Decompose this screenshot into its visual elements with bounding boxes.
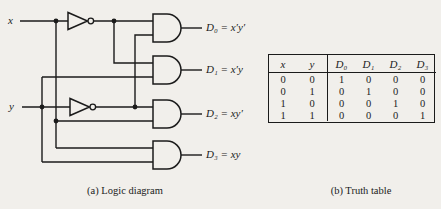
not-gate-y <box>70 99 96 116</box>
figure-decoder: x y D₀ = x′y′ D₁ = x′y D₂ = xy′ D₃ = xy … <box>0 0 441 209</box>
junction-dot-x-d2 <box>54 119 59 124</box>
output-label-d1: D₁ = x′y <box>206 63 243 76</box>
table-cell: 0 <box>269 73 297 85</box>
wire-yprime-to-d0 <box>135 35 153 107</box>
table-cell: 1 <box>269 109 297 121</box>
caption-logic-diagram: (a) Logic diagram <box>70 185 180 197</box>
truth-table-header-y: y <box>297 55 328 73</box>
junction-dot-yprime <box>133 105 138 110</box>
table-cell: 1 <box>409 109 436 121</box>
and-gate-d0 <box>153 14 181 42</box>
truth-table-header-d1: D₁ <box>355 55 382 73</box>
table-cell: 1 <box>269 97 297 109</box>
truth-table: x y D₀ D₁ D₂ D₃ 0 0 1 0 0 0 0 1 0 1 0 0 … <box>268 54 435 123</box>
not-gate-y-triangle <box>70 99 90 116</box>
junction-dot-x <box>54 19 59 24</box>
truth-table-header-d0: D₀ <box>328 55 355 73</box>
table-cell: 1 <box>297 109 328 121</box>
table-cell: 0 <box>297 97 328 109</box>
table-cell: 0 <box>409 97 436 109</box>
table-cell: 0 <box>409 85 436 97</box>
table-cell: 0 <box>328 109 355 121</box>
table-cell: 0 <box>355 73 382 85</box>
table-cell: 0 <box>382 109 409 121</box>
input-label-x: x <box>8 14 13 27</box>
not-gate-y-bubble <box>90 104 96 110</box>
table-cell: 0 <box>382 73 409 85</box>
caption-truth-table: (b) Truth table <box>306 185 416 197</box>
table-cell: 0 <box>328 97 355 109</box>
table-cell: 0 <box>355 109 382 121</box>
table-cell: 0 <box>297 73 328 85</box>
wire-xprime-to-d1 <box>114 21 153 63</box>
table-cell: 0 <box>269 85 297 97</box>
junction-dot-y <box>40 105 45 110</box>
and-gate-d3 <box>153 141 181 169</box>
and-gate-d2 <box>153 100 181 128</box>
not-gate-x <box>68 13 94 30</box>
not-gate-x-triangle <box>68 13 88 30</box>
table-cell: 0 <box>355 97 382 109</box>
table-cell: 0 <box>382 85 409 97</box>
truth-table-header-d3: D₃ <box>409 55 436 73</box>
output-label-d0: D₀ = x′y′ <box>206 21 245 34</box>
not-gate-x-bubble <box>88 18 94 24</box>
junction-dot-xprime <box>112 19 117 24</box>
truth-table-header-d2: D₂ <box>382 55 409 73</box>
output-label-d3: D₃ = xy <box>206 148 240 161</box>
table-cell: 0 <box>409 73 436 85</box>
table-cell: 0 <box>328 85 355 97</box>
table-cell: 1 <box>355 85 382 97</box>
table-cell: 1 <box>297 85 328 97</box>
truth-table-header-x: x <box>269 55 297 73</box>
output-label-d2: D₂ = xy′ <box>206 107 243 120</box>
table-cell: 1 <box>328 73 355 85</box>
input-label-y: y <box>9 100 14 113</box>
table-cell: 1 <box>382 97 409 109</box>
and-gate-d1 <box>153 56 181 84</box>
